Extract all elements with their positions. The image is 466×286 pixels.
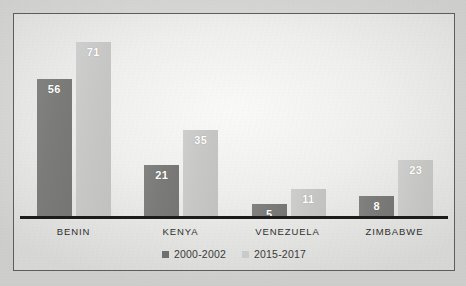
- legend-label: 2000-2002: [174, 248, 226, 260]
- bar-group-kenya: 21 35: [128, 20, 236, 216]
- category-axis-labels: BENIN KENYA VENEZUELA ZIMBABWE: [20, 222, 448, 242]
- category-label-venezuela: VENEZUELA: [234, 222, 341, 242]
- category-label-kenya: KENYA: [127, 222, 234, 242]
- bar-benin-2000-2002[interactable]: 56: [37, 79, 72, 216]
- bar-value-label: 35: [194, 135, 207, 146]
- bar-groups: 56 71 21 35 5 11: [20, 20, 450, 216]
- bar-value-label: 11: [302, 194, 314, 205]
- bar-group-zimbabwe: 8 23: [343, 20, 451, 216]
- bar-value-label: 56: [48, 84, 61, 95]
- legend-swatch-icon: [162, 251, 169, 258]
- legend-item-2000-2002[interactable]: 2000-2002: [162, 248, 226, 260]
- bar-value-label: 23: [409, 165, 422, 176]
- bar-venezuela-2015-2017[interactable]: 11: [291, 189, 326, 216]
- legend-label: 2015-2017: [254, 248, 306, 260]
- bar-zimbabwe-2000-2002[interactable]: 8: [359, 196, 394, 216]
- bar-value-label: 71: [87, 47, 100, 58]
- bar-venezuela-2000-2002[interactable]: 5: [252, 204, 287, 216]
- bar-kenya-2000-2002[interactable]: 21: [144, 165, 179, 216]
- legend-swatch-icon: [242, 251, 249, 258]
- bar-benin-2015-2017[interactable]: 71: [76, 42, 111, 216]
- x-axis-line: [20, 216, 448, 219]
- chart-legend: 2000-2002 2015-2017: [14, 248, 454, 260]
- category-label-zimbabwe: ZIMBABWE: [341, 222, 448, 242]
- plot-area: 56 71 21 35 5 11: [20, 20, 450, 216]
- category-label-benin: BENIN: [20, 222, 127, 242]
- bar-value-label: 8: [374, 201, 380, 212]
- bar-zimbabwe-2015-2017[interactable]: 23: [398, 160, 433, 216]
- chart-frame: 56 71 21 35 5 11: [13, 13, 455, 271]
- bar-kenya-2015-2017[interactable]: 35: [183, 130, 218, 216]
- legend-item-2015-2017[interactable]: 2015-2017: [242, 248, 306, 260]
- bar-value-label: 21: [155, 170, 168, 181]
- bar-group-venezuela: 5 11: [235, 20, 343, 216]
- bar-group-benin: 56 71: [20, 20, 128, 216]
